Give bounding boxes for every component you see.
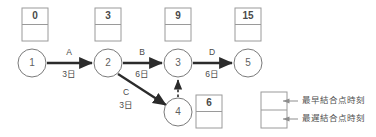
node-number: 4	[175, 106, 181, 117]
activity-name-label: C	[123, 87, 129, 97]
activity-name-label: D	[209, 47, 215, 57]
activity-name-label: B	[139, 47, 145, 57]
earliest-time-value: 3	[105, 10, 111, 21]
activity-B: B6日	[123, 47, 162, 79]
activity-D: D6日	[193, 47, 232, 79]
node-number: 2	[105, 57, 111, 68]
activity-C: C3日	[118, 74, 166, 110]
time-box-node-4: 6	[196, 95, 222, 128]
activity-duration-label: 6日	[135, 69, 149, 79]
node-number: 1	[29, 57, 35, 68]
legend-entry-latest: 最遅結合点時刻	[283, 113, 365, 123]
time-boxes-layer: 039156	[22, 8, 261, 128]
legend: 最早結合点時刻最遅結合点時刻	[261, 92, 365, 128]
time-box-node-5: 15	[235, 8, 261, 41]
earliest-time-value: 9	[175, 10, 181, 21]
legend-label: 最遅結合点時刻	[302, 113, 365, 123]
earliest-time-value: 15	[242, 10, 254, 21]
activity-duration-label: 6日	[205, 69, 219, 79]
legend-box	[261, 92, 287, 128]
node-number: 5	[245, 57, 251, 68]
node-5[interactable]: 5	[234, 49, 262, 77]
activity-duration-label: 3日	[119, 100, 133, 110]
node-2[interactable]: 2	[94, 49, 122, 77]
legend-label: 最早結合点時刻	[302, 95, 365, 105]
earliest-time-value: 6	[206, 97, 212, 108]
time-box-node-1: 0	[22, 8, 48, 41]
time-box-node-2: 3	[95, 8, 121, 41]
diagram-canvas: A3日B6日C3日D6日 12345 039156 最早結合点時刻最遅結合点時刻	[0, 0, 376, 137]
legend-entry-earliest: 最早結合点時刻	[283, 95, 365, 105]
activity-duration-label: 3日	[62, 69, 76, 79]
time-box-node-3: 9	[165, 8, 191, 41]
node-number: 3	[175, 57, 181, 68]
activity-name-label: A	[66, 47, 72, 57]
node-3[interactable]: 3	[164, 49, 192, 77]
activity-A: A3日	[47, 47, 92, 79]
earliest-time-value: 0	[32, 10, 38, 21]
arrow-diagram: A3日B6日C3日D6日 12345 039156 最早結合点時刻最遅結合点時刻	[0, 0, 376, 137]
node-4[interactable]: 4	[164, 98, 192, 126]
node-1[interactable]: 1	[18, 49, 46, 77]
